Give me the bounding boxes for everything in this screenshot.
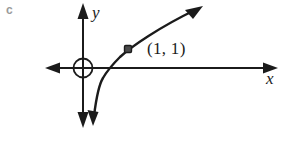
y-axis-up-arrow-icon xyxy=(78,3,89,19)
curve-up-arrow-icon xyxy=(185,6,203,19)
figure-container: c y x (1, 1) xyxy=(0,0,298,144)
logarithmic-curve xyxy=(94,10,195,116)
point-marker-1-1 xyxy=(125,46,132,53)
x-axis-left-arrow-icon xyxy=(45,63,60,74)
coordinate-graph xyxy=(0,0,298,144)
y-axis-down-arrow-icon xyxy=(78,112,89,128)
curve-down-arrow-icon xyxy=(88,110,99,126)
point-coordinate-label: (1, 1) xyxy=(147,40,186,57)
x-axis-label: x xyxy=(266,70,274,87)
y-axis-label: y xyxy=(92,4,100,21)
